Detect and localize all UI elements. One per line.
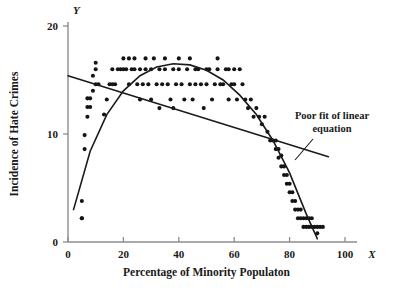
data-point bbox=[188, 56, 192, 60]
data-point bbox=[171, 67, 175, 71]
y-tick-label-0: 0 bbox=[53, 236, 59, 248]
data-point bbox=[168, 97, 172, 101]
data-point bbox=[163, 56, 167, 60]
x-tick-label-80: 80 bbox=[284, 248, 296, 260]
data-point bbox=[91, 74, 95, 78]
x-tick-label-100: 100 bbox=[337, 248, 354, 260]
data-point bbox=[321, 225, 325, 229]
y-tick-label-20: 20 bbox=[47, 20, 59, 32]
data-point bbox=[232, 67, 236, 71]
data-point bbox=[88, 96, 92, 100]
data-point bbox=[180, 82, 184, 86]
data-point bbox=[249, 97, 253, 101]
data-point bbox=[177, 56, 181, 60]
data-point bbox=[263, 115, 267, 119]
annotation-leader-line bbox=[295, 139, 313, 160]
data-point bbox=[216, 67, 220, 71]
data-point bbox=[235, 97, 239, 101]
data-point bbox=[193, 82, 197, 86]
data-point bbox=[204, 82, 208, 86]
data-point bbox=[144, 56, 148, 60]
data-point bbox=[138, 67, 142, 71]
data-point bbox=[83, 133, 87, 137]
annotation-line-1: Poor fit of linear bbox=[295, 110, 370, 121]
data-point bbox=[160, 82, 164, 86]
data-point bbox=[177, 67, 181, 71]
x-tick-label-20: 20 bbox=[118, 248, 130, 260]
data-point bbox=[288, 182, 292, 186]
data-point bbox=[132, 56, 136, 60]
data-point bbox=[94, 67, 98, 71]
hate-crimes-scatter-figure: 02040608010001020 Percentage of Minority… bbox=[0, 0, 396, 296]
data-point bbox=[310, 216, 314, 220]
x-tick-label-0: 0 bbox=[65, 248, 71, 260]
data-point bbox=[80, 199, 84, 203]
data-point bbox=[227, 97, 231, 101]
data-point bbox=[88, 105, 92, 109]
quadratic-curve bbox=[74, 64, 318, 239]
data-point bbox=[290, 190, 294, 194]
data-point bbox=[293, 199, 297, 203]
scatter-points-group bbox=[80, 56, 325, 235]
data-point bbox=[124, 67, 128, 71]
data-point bbox=[221, 82, 225, 86]
data-point bbox=[144, 67, 148, 71]
chart-canvas: 02040608010001020 Percentage of Minority… bbox=[0, 0, 396, 296]
data-point bbox=[132, 67, 136, 71]
data-point bbox=[240, 82, 244, 86]
data-point bbox=[238, 67, 242, 71]
data-point bbox=[191, 97, 195, 101]
y-axis-letter: Y bbox=[73, 4, 81, 16]
data-point bbox=[285, 173, 289, 177]
data-point bbox=[80, 216, 84, 220]
data-point bbox=[141, 82, 145, 86]
data-point bbox=[227, 67, 231, 71]
fit-lines-group bbox=[68, 64, 328, 239]
data-point bbox=[127, 56, 131, 60]
axis-titles-group: Percentage of Minority PopulatonIncidenc… bbox=[8, 4, 376, 279]
data-point bbox=[213, 82, 217, 86]
x-axis-letter: X bbox=[367, 248, 376, 260]
data-point bbox=[188, 82, 192, 86]
data-point bbox=[85, 115, 89, 119]
x-tick-label-40: 40 bbox=[173, 248, 185, 260]
linear-regression-line bbox=[68, 76, 328, 157]
data-point bbox=[157, 106, 161, 110]
data-point bbox=[216, 56, 220, 60]
data-point bbox=[110, 67, 114, 71]
data-point bbox=[152, 56, 156, 60]
data-point bbox=[146, 82, 150, 86]
data-point bbox=[185, 67, 189, 71]
data-point bbox=[83, 147, 87, 151]
tick-labels-group: 02040608010001020 bbox=[47, 20, 354, 260]
data-point bbox=[182, 97, 186, 101]
data-point bbox=[299, 208, 303, 212]
data-point bbox=[166, 82, 170, 86]
data-point bbox=[121, 56, 125, 60]
data-point bbox=[174, 82, 178, 86]
annotation-group: Poor fit of linearequation bbox=[295, 110, 370, 160]
annotation-line-2: equation bbox=[312, 123, 351, 134]
data-point bbox=[105, 97, 109, 101]
data-point bbox=[135, 82, 139, 86]
data-point bbox=[113, 82, 117, 86]
data-point bbox=[163, 67, 167, 71]
data-point bbox=[91, 89, 95, 93]
data-point bbox=[210, 97, 214, 101]
data-point bbox=[94, 61, 98, 65]
y-tick-label-10: 10 bbox=[47, 128, 59, 140]
data-point bbox=[202, 106, 206, 110]
data-point bbox=[157, 67, 161, 71]
y-axis-title: Incidence of Hate Crimes bbox=[8, 71, 20, 196]
x-tick-label-60: 60 bbox=[229, 248, 241, 260]
x-axis-title: Percentage of Minority Populaton bbox=[123, 266, 290, 279]
data-point bbox=[232, 82, 236, 86]
data-point bbox=[199, 82, 203, 86]
data-point bbox=[155, 82, 159, 86]
data-point bbox=[252, 115, 256, 119]
data-point bbox=[254, 106, 258, 110]
